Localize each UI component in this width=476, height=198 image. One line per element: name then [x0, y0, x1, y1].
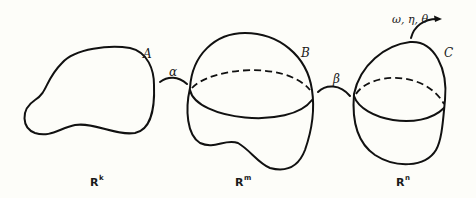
label-forms: ω, η, θ — [392, 13, 429, 26]
region-c-equator-front — [354, 96, 444, 121]
manifold-maps-diagram: A α B β C ω, η, θ R k R m R n — [0, 0, 476, 198]
space-label-rk-exp: k — [99, 174, 104, 182]
space-label-rk: R — [90, 176, 99, 189]
label-beta: β — [332, 72, 340, 86]
region-b-equator-back — [192, 70, 310, 90]
space-label-rm-exp: m — [244, 174, 251, 182]
region-c-equator-back — [356, 78, 444, 104]
region-a-outline — [24, 47, 154, 134]
forms-arrowhead — [434, 16, 442, 23]
label-b: B — [300, 46, 310, 60]
map-beta-arc — [318, 86, 350, 96]
label-a: A — [142, 47, 152, 61]
region-b-equator-front — [190, 90, 312, 118]
space-label-rn: R — [396, 176, 405, 189]
label-c: C — [444, 46, 453, 60]
region-c-outline — [354, 42, 446, 164]
region-b-outline — [187, 33, 313, 169]
space-label-rm: R — [235, 176, 244, 189]
label-alpha: α — [169, 65, 177, 79]
space-label-rn-exp: n — [405, 174, 410, 182]
